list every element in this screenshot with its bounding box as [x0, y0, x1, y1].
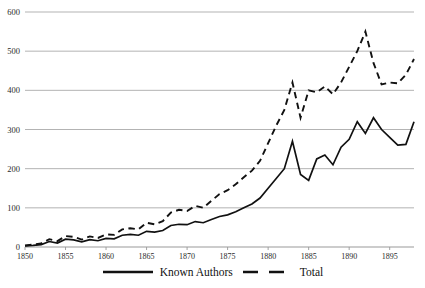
x-tick-label: 1880: [251, 252, 285, 261]
x-tick-label: 1865: [130, 252, 164, 261]
gridlines: [25, 12, 414, 208]
y-tick-label: 0: [0, 242, 20, 252]
y-tick-label: 600: [0, 7, 20, 17]
x-tick-label: 1875: [211, 252, 245, 261]
legend-label-known-authors: Known Authors: [160, 266, 233, 278]
legend-swatch-solid: [102, 267, 154, 277]
y-tick-label: 200: [0, 164, 20, 174]
x-tick-label: 1850: [8, 252, 42, 261]
x-tick-label: 1860: [89, 252, 123, 261]
x-tick-label: 1870: [170, 252, 204, 261]
series-line-total: [25, 32, 414, 246]
legend-swatch-dashed: [242, 267, 294, 277]
y-tick-label: 100: [0, 203, 20, 213]
x-tick-label: 1855: [49, 252, 83, 261]
legend-item-total: Total: [242, 266, 323, 278]
x-tick-label: 1890: [332, 252, 366, 261]
chart-plot-area: [0, 0, 425, 288]
x-tick-label: 1895: [373, 252, 407, 261]
x-tick-label: 1885: [292, 252, 326, 261]
data-series: [25, 32, 414, 246]
chart-container: 0100200300400500600 18501855186018651870…: [0, 0, 425, 288]
legend-label-total: Total: [300, 266, 323, 278]
y-tick-label: 300: [0, 125, 20, 135]
legend-item-known-authors: Known Authors: [102, 266, 233, 278]
y-tick-label: 500: [0, 46, 20, 56]
y-tick-label: 400: [0, 85, 20, 95]
series-line-known-authors: [25, 118, 414, 246]
chart-legend: Known Authors Total: [0, 266, 425, 278]
